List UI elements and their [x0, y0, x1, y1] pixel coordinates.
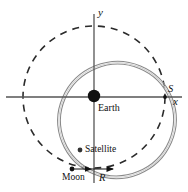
point-s-dot: [163, 95, 167, 99]
satellite-label: Satellite: [85, 145, 116, 155]
moon-label: Moon: [62, 173, 85, 183]
radius-r-label: R: [99, 173, 105, 184]
point-s-label: S: [168, 84, 173, 95]
earth-label: Earth: [98, 103, 120, 113]
satellite-orbit-figure: y x Earth Satellite Moon S R: [0, 0, 188, 192]
x-axis-label: x: [173, 96, 178, 107]
satellite-orbit-middle: [42, 45, 188, 192]
satellite-orbit-inner: [44, 47, 188, 192]
earth-dot: [88, 90, 100, 102]
satellite-orbit-group: [40, 44, 188, 192]
diagram-canvas: [0, 0, 188, 192]
moon-dot: [70, 167, 75, 172]
satellite-orbit-outer: [40, 44, 188, 192]
satellite-dot: [78, 148, 83, 153]
y-axis-label: y: [98, 7, 103, 18]
